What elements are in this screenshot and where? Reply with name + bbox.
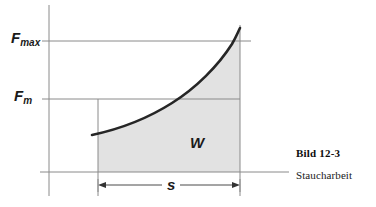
figure-staucharbeit: Fmax Fm W s Bild 12-3 Staucharbeit [0,0,376,207]
dimension-arrowhead-left-icon [98,182,106,188]
work-area-shading [98,28,240,172]
y-axis-label-fm: Fm [14,88,32,103]
fm-subscript: m [23,95,32,106]
caption-subtitle: Staucharbeit [296,168,376,182]
stroke-dimension-label: s [162,176,180,193]
caption-title: Bild 12-3 [296,146,376,160]
fmax-base: F [11,29,20,46]
fmax-subscript: max [20,37,40,48]
fm-base: F [14,87,23,104]
figure-caption: Bild 12-3 Staucharbeit [296,146,376,182]
y-axis-label-fmax: Fmax [11,30,40,45]
dimension-arrowhead-right-icon [232,182,240,188]
work-area-label: W [190,134,204,151]
